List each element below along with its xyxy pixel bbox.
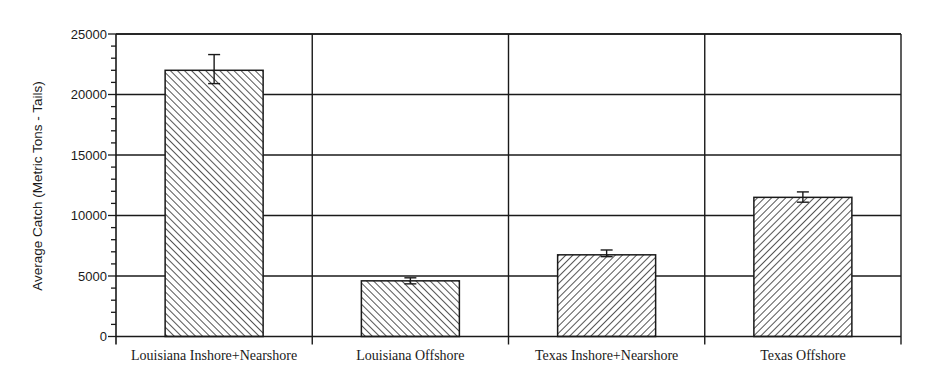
bar — [165, 70, 263, 336]
bar — [754, 197, 852, 336]
y-tick-label: 25000 — [71, 27, 107, 42]
x-tick-label: Louisiana Offshore — [356, 348, 464, 363]
x-tick-label: Texas Inshore+Nearshore — [535, 348, 678, 363]
x-tick-label: Louisiana Inshore+Nearshore — [131, 348, 297, 363]
bar — [558, 255, 656, 337]
y-axis: 0500010000150002000025000 — [71, 27, 116, 345]
y-tick-label: 10000 — [71, 208, 107, 223]
y-tick-label: 15000 — [71, 148, 107, 163]
bar — [361, 281, 459, 337]
x-tick-label: Texas Offshore — [760, 348, 845, 363]
y-axis-title: Average Catch (Metric Tons - Tails) — [30, 81, 45, 290]
y-tick-label: 5000 — [78, 269, 107, 284]
x-axis: Louisiana Inshore+NearshoreLouisiana Off… — [131, 348, 846, 363]
bar-chart: 0500010000150002000025000 Louisiana Insh… — [0, 0, 927, 377]
y-tick-label: 20000 — [71, 87, 107, 102]
y-tick-label: 0 — [100, 329, 107, 344]
